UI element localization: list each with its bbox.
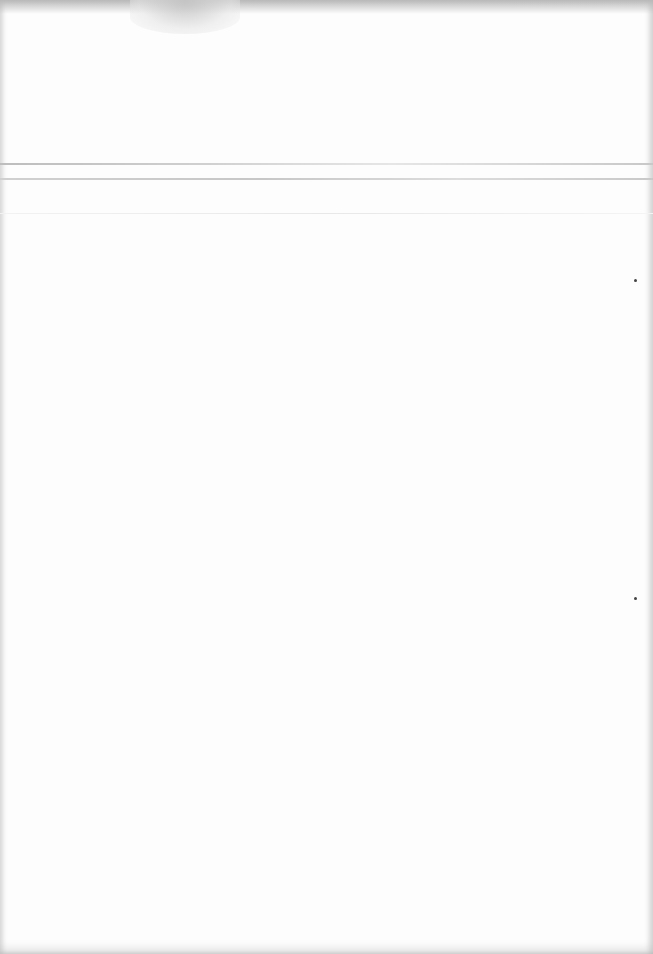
ruled-line xyxy=(0,178,653,180)
ruled-line xyxy=(0,213,653,214)
ruled-line xyxy=(0,163,653,165)
speck-mark xyxy=(634,279,637,282)
speck-mark xyxy=(634,597,637,600)
top-edge-shadow xyxy=(0,0,653,14)
paper-tear-shadow xyxy=(130,0,240,34)
scanned-page xyxy=(0,0,653,954)
